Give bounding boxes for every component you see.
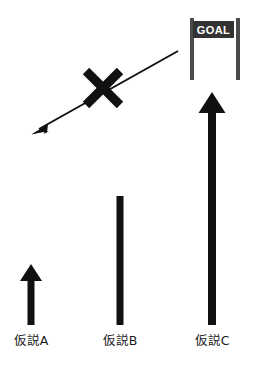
goal-post-right-icon [236, 18, 240, 80]
hypothesis-c-arrow [199, 92, 226, 325]
hypothesis-c-label: 仮説C [195, 333, 230, 348]
hypothesis-a-arrow-shaft [28, 279, 35, 325]
goal-sign: GOAL [190, 18, 240, 80]
hypothesis-a-arrow-head-icon [20, 264, 42, 281]
hypothesis-c-arrow-shaft [208, 111, 216, 325]
goal-banner-label: GOAL [197, 24, 230, 36]
hypothesis-b-arrow [117, 196, 124, 325]
figure-canvas: GOAL 仮説A 仮説B 仮説C [0, 0, 255, 371]
hypothesis-c-arrow-head-icon [199, 92, 226, 113]
hypothesis-a-label: 仮説A [14, 333, 49, 348]
hypothesis-b-arrow-shaft [117, 196, 124, 325]
rejected-path-group [32, 51, 179, 135]
hypothesis-comparison-diagram: GOAL 仮説A 仮説B 仮説C [0, 0, 255, 371]
hypothesis-b-label: 仮説B [103, 333, 138, 348]
hypothesis-a-arrow [20, 264, 42, 325]
